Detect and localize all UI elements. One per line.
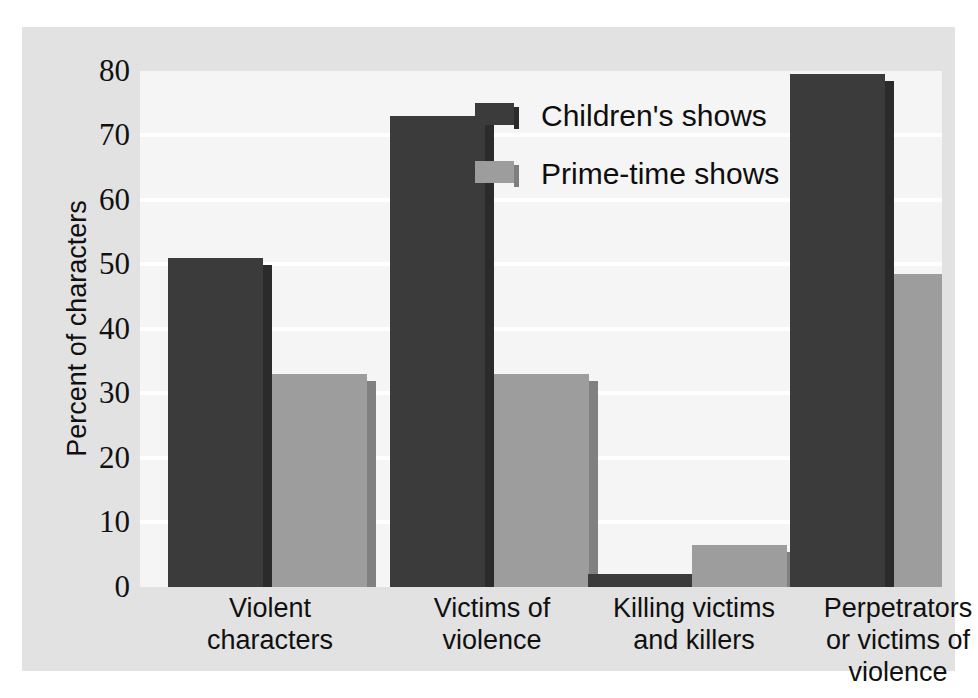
bar-primetime-violent-characters — [272, 374, 376, 587]
legend-label-children-shows: Children's shows — [541, 99, 767, 133]
bar-children-perpetrators-or-victims — [790, 74, 894, 587]
chart-figure: 80 70 60 50 40 30 20 10 0 Percent of cha… — [0, 0, 978, 698]
bar-face — [168, 258, 263, 587]
legend-item-prime-time-shows: Prime-time shows — [475, 145, 779, 203]
x-label-line: and killers — [580, 625, 808, 657]
x-label-violent-characters: Violent characters — [160, 593, 380, 657]
x-label-line: or victims of — [784, 625, 978, 657]
bar-children-killing-victims-and-killers — [588, 574, 692, 587]
swatch-face — [475, 161, 514, 183]
legend-item-children-shows: Children's shows — [475, 87, 779, 145]
bar-face — [588, 574, 692, 587]
chart-legend: Children's shows Prime-time shows — [475, 87, 779, 203]
swatch-side — [514, 165, 519, 187]
bar-children-violent-characters — [168, 258, 272, 587]
x-label-victims-of-violence: Victims of violence — [382, 593, 602, 657]
plot-area: Children's shows Prime-time shows — [140, 71, 942, 587]
bar-face — [894, 274, 942, 587]
bar-face — [390, 116, 485, 587]
x-label-line: violence — [382, 625, 602, 657]
bar-side-shadow — [367, 381, 376, 587]
x-axis-category-labels: Violent characters Victims of violence K… — [140, 593, 942, 698]
bar-primetime-victims-of-violence — [494, 374, 598, 587]
bar-face — [494, 374, 589, 587]
x-label-line: violence — [784, 657, 978, 689]
chart-panel: 80 70 60 50 40 30 20 10 0 Percent of cha… — [22, 27, 955, 671]
x-label-killing-victims-and-killers: Killing victims and killers — [580, 593, 808, 657]
bar-side-shadow — [589, 381, 598, 587]
legend-swatch-light-icon — [475, 161, 519, 187]
x-label-line: Victims of — [382, 593, 602, 625]
bar-side-shadow — [263, 265, 272, 587]
bar-side-shadow — [885, 81, 894, 587]
bar-face — [790, 74, 885, 587]
legend-swatch-dark-icon — [475, 103, 519, 129]
bar-primetime-killing-victims-and-killers — [692, 545, 796, 587]
x-label-perpetrators-or-victims-of-violence: Perpetrators or victims of violence — [784, 593, 978, 689]
x-label-line: Perpetrators — [784, 593, 978, 625]
y-axis-title: Percent of characters — [62, 69, 93, 589]
swatch-side — [514, 107, 519, 129]
x-label-line: characters — [160, 625, 380, 657]
bar-primetime-perpetrators-or-victims — [894, 274, 942, 587]
swatch-face — [475, 103, 514, 125]
x-label-line: Killing victims — [580, 593, 808, 625]
legend-label-prime-time-shows: Prime-time shows — [541, 157, 779, 191]
bar-face — [272, 374, 367, 587]
x-label-line: Violent — [160, 593, 380, 625]
bar-face — [692, 545, 787, 587]
